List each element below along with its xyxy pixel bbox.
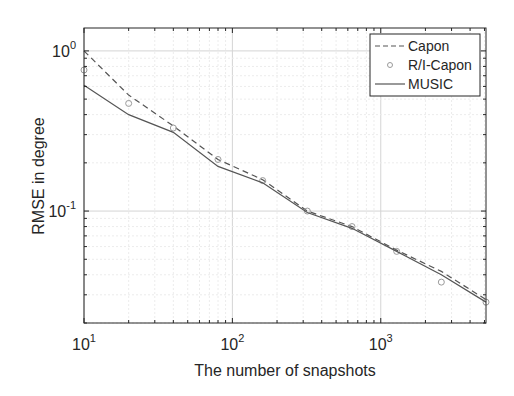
legend-label: R/I-Capon [408,57,472,73]
rmse-vs-snapshots-chart: 10110210310-1100 The number of snapshots… [0,0,514,396]
y-tick-label: 10-1 [48,199,76,220]
legend-label: MUSIC [408,76,453,92]
data-point-marker [438,279,444,285]
x-tick-label: 102 [220,332,244,353]
x-tick-label: 101 [72,332,96,353]
legend-label: Capon [408,38,449,54]
y-tick-label: 100 [52,39,76,60]
legend: CaponR/I-CaponMUSIC [370,34,480,96]
x-axis-title: The number of snapshots [194,362,375,379]
y-axis-title: RMSE in degree [30,117,47,234]
x-tick-label: 103 [369,332,393,353]
